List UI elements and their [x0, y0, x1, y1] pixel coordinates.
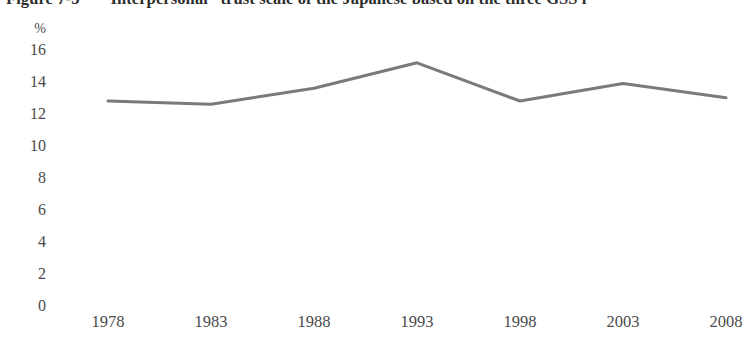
trust-scale-line: [108, 63, 726, 104]
x-tick-2003: 2003: [583, 313, 663, 331]
x-tick-1983: 1983: [171, 313, 251, 331]
x-tick-1998: 1998: [480, 313, 560, 331]
x-tick-2008: 2008: [686, 313, 748, 331]
x-tick-1988: 1988: [274, 313, 354, 331]
chart-plot-area: % 16 14 12 10 8 6 4 2 0 1978 1983 1988 1…: [0, 0, 748, 355]
x-tick-1993: 1993: [377, 313, 457, 331]
figure-container: Figure 7-3 “Interpersonal” trust scale o…: [0, 0, 748, 355]
chart-line-svg: [0, 0, 748, 355]
x-tick-1978: 1978: [68, 313, 148, 331]
